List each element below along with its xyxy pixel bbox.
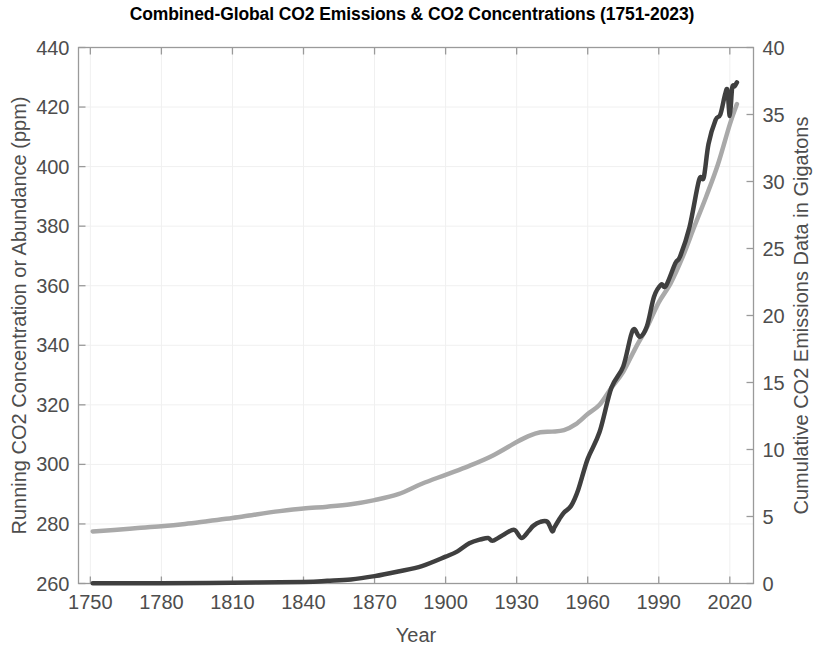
- x-tick-label: 1750: [68, 591, 113, 613]
- y-right-tick-label: 35: [763, 104, 785, 126]
- y-left-tick-label: 420: [36, 96, 69, 118]
- x-tick-label: 1870: [352, 591, 397, 613]
- y-right-tick-label: 30: [763, 171, 785, 193]
- x-tick-label: 1960: [565, 591, 610, 613]
- x-tick-label: 1840: [281, 591, 326, 613]
- chart-figure: Combined-Global CO2 Emissions & CO2 Conc…: [0, 0, 824, 647]
- x-tick-label: 1990: [637, 591, 682, 613]
- y-right-tick-label: 15: [763, 372, 785, 394]
- x-tick-label: 1780: [139, 591, 184, 613]
- y-left-tick-label: 300: [36, 453, 69, 475]
- y-left-axis-title: Running CO2 Concentration or Abundance (…: [8, 96, 30, 534]
- y-right-tick-label: 25: [763, 238, 785, 260]
- y-left-tick-label: 340: [36, 334, 69, 356]
- y-left-tick-label: 320: [36, 394, 69, 416]
- y-left-tick-label: 280: [36, 513, 69, 535]
- chart-plot-area: 1750178018101840187019001930196019902020…: [0, 0, 824, 647]
- x-tick-label: 1930: [494, 591, 539, 613]
- x-axis-title: Year: [396, 624, 437, 646]
- x-tick-label: 1900: [423, 591, 468, 613]
- y-right-tick-label: 5: [763, 506, 774, 528]
- y-right-tick-label: 0: [763, 573, 774, 595]
- y-left-tick-label: 400: [36, 156, 69, 178]
- series-line-1: [93, 104, 737, 531]
- axis-labels-group: 1750178018101840187019001930196019902020…: [8, 37, 812, 646]
- x-tick-label: 2020: [708, 591, 753, 613]
- y-right-axis-title: Cumulative CO2 Emissions Data in Gigaton…: [790, 117, 812, 515]
- series-group: [93, 82, 737, 583]
- y-left-tick-label: 380: [36, 215, 69, 237]
- series-line-2: [93, 82, 737, 583]
- x-tick-label: 1810: [210, 591, 255, 613]
- y-right-tick-label: 20: [763, 305, 785, 327]
- y-right-tick-label: 10: [763, 439, 785, 461]
- y-left-tick-label: 260: [36, 573, 69, 595]
- y-left-tick-label: 440: [36, 37, 69, 59]
- y-right-tick-label: 40: [763, 37, 785, 59]
- y-left-tick-label: 360: [36, 275, 69, 297]
